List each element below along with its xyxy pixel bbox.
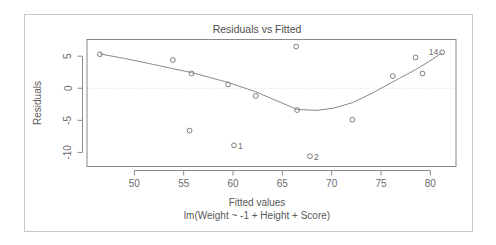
x-tick-label: 55 — [178, 178, 190, 189]
data-point — [390, 74, 395, 79]
y-tick-label: 5 — [63, 53, 74, 59]
y-tick-label: 0 — [63, 85, 74, 91]
data-point — [232, 143, 237, 148]
data-point — [253, 94, 258, 99]
x-tick-label: 80 — [425, 178, 437, 189]
data-point — [187, 128, 192, 133]
plot-window-frame: Residuals vs Fitted 1214 50556065707580 … — [24, 14, 473, 232]
r-graphics-device: Residuals vs Fitted 1214 50556065707580 … — [25, 15, 472, 231]
model-formula-subtitle: lm(Weight ~ -1 + Height + Score) — [184, 210, 330, 221]
y-tick-label: -5 — [63, 115, 74, 124]
chart-title: Residuals vs Fitted — [213, 23, 302, 35]
data-point — [170, 58, 175, 63]
data-point — [440, 50, 445, 55]
data-point — [294, 44, 299, 49]
x-tick-label: 65 — [277, 178, 289, 189]
y-tick-label: -10 — [63, 145, 74, 160]
point-label: 1 — [238, 141, 243, 151]
x-tick-label: 70 — [326, 178, 338, 189]
plot-box-border — [87, 40, 456, 167]
x-tick-label: 75 — [375, 178, 387, 189]
lowess-smoother-curve — [100, 53, 442, 111]
x-tick-label: 50 — [129, 178, 141, 189]
data-point — [308, 154, 313, 159]
y-axis-ticks: 50-5-10 — [63, 53, 83, 160]
data-points-group — [97, 44, 444, 158]
data-point — [350, 117, 355, 122]
x-axis-ticks: 50556065707580 — [129, 171, 437, 190]
data-point — [295, 108, 300, 113]
point-labels-group: 1214 — [238, 47, 438, 162]
screenshot-root: Residuals vs Fitted 1214 50556065707580 … — [0, 0, 496, 245]
residuals-vs-fitted-chart: Residuals vs Fitted 1214 50556065707580 … — [25, 15, 472, 231]
y-axis-title: Residuals — [32, 81, 43, 125]
x-axis-title: Fitted values — [229, 197, 286, 208]
x-tick-label: 60 — [227, 178, 239, 189]
data-point — [413, 55, 418, 60]
point-label: 14 — [429, 47, 439, 57]
point-label: 2 — [314, 152, 319, 162]
data-point — [420, 71, 425, 76]
